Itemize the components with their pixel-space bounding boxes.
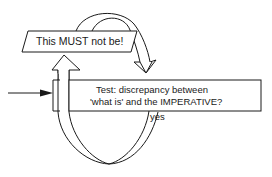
input-arrowhead-icon: [40, 90, 53, 97]
up-arrowhead-icon: [52, 55, 80, 80]
yes-edge-label: yes: [150, 111, 165, 123]
test-label-line2: 'what is' and the IMPERATIVE?: [90, 96, 222, 108]
input-bracket: [53, 80, 60, 111]
imperative-label: This MUST not be!: [36, 35, 123, 47]
test-label-line1: Test: discrepancy between: [96, 84, 208, 96]
